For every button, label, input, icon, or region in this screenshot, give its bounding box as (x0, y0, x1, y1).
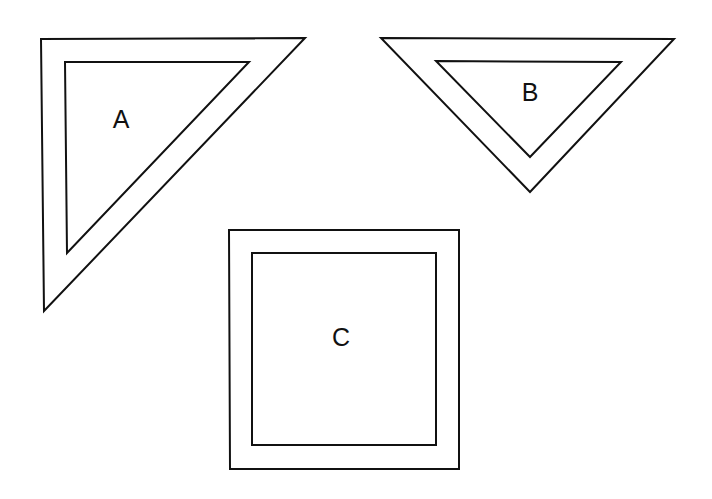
shapes-svg: A B C (0, 0, 712, 499)
shape-a-outer (41, 38, 305, 311)
shape-a-label: A (113, 105, 130, 133)
shape-c-label: C (332, 323, 350, 351)
shape-c: C (229, 230, 459, 469)
shape-b: B (381, 38, 674, 192)
shape-a: A (41, 38, 305, 311)
shape-a-inner (65, 62, 249, 253)
shape-b-inner (436, 61, 621, 157)
shape-b-label: B (522, 78, 539, 106)
diagram-canvas: A B C (0, 0, 712, 499)
